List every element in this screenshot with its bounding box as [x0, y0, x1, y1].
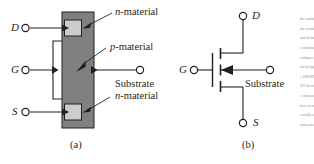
substrate-terminal-node-structure	[136, 66, 143, 73]
symbol-substrate-label: Substrate	[245, 79, 284, 90]
drain-terminal-label: D	[11, 22, 19, 33]
substrate-label-structure: Substrate	[115, 79, 154, 90]
gate-contact-marker	[52, 66, 59, 74]
n-material-bottom-annotation: n-material	[115, 91, 158, 102]
symbol-substrate-arrow	[221, 65, 233, 75]
mosfet-figure: D G S Substrate n-material p-material n-…	[0, 0, 314, 164]
n-material-bottom-suffix: -material	[120, 90, 158, 101]
symbol-gate-terminal-label: G	[179, 64, 187, 75]
symbol-gate-terminal-node	[190, 66, 197, 73]
p-material-suffix: -material	[115, 41, 153, 52]
gate-terminal-label: G	[11, 64, 19, 75]
source-terminal-label: S	[12, 106, 18, 117]
source-terminal-node	[22, 108, 29, 115]
page-margin-text-fragment: the substrate terminal of the n channel …	[300, 14, 314, 132]
symbol-source-terminal-label: S	[253, 117, 259, 128]
n-material-top-annotation: n-material	[115, 7, 158, 18]
caption-a: (a)	[70, 140, 82, 151]
drain-terminal-node	[22, 24, 29, 31]
n-material-top-suffix: -material	[120, 6, 158, 17]
symbol-substrate-terminal-node	[266, 66, 273, 73]
symbol-source-terminal-node	[239, 119, 246, 126]
gate-terminal-node	[22, 66, 29, 73]
p-material-annotation: p-material	[110, 42, 153, 53]
caption-b: (b)	[242, 140, 254, 151]
symbol-drain-terminal-label: D	[252, 10, 260, 21]
symbol-drain-terminal-node	[239, 12, 246, 19]
